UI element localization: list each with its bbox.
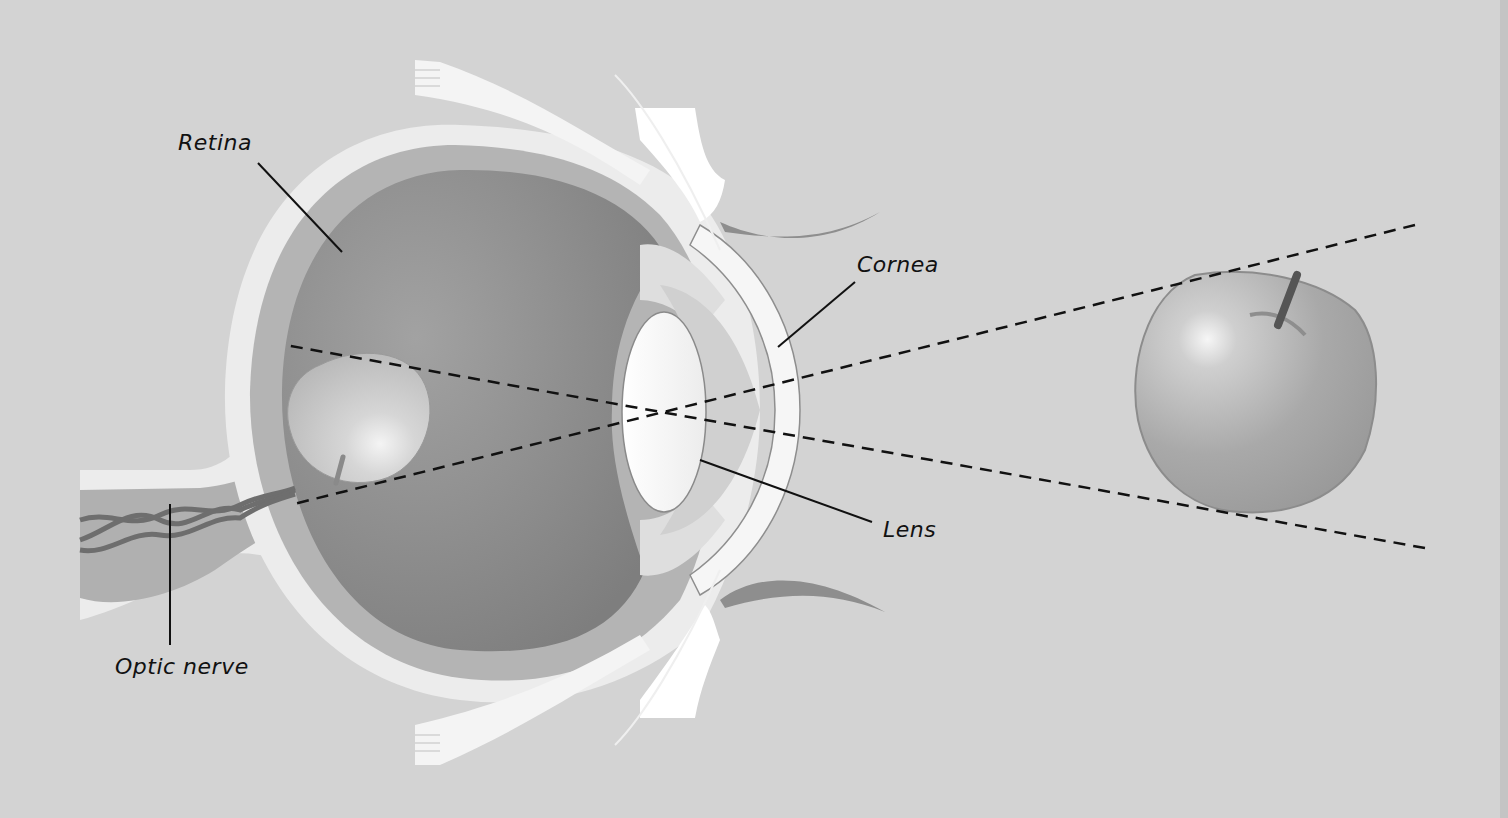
eye-illustration [0,0,1508,818]
lens-label: Lens [883,517,936,542]
lens [622,312,706,512]
cornea-leader [778,282,855,347]
optic-nerve-label: Optic nerve [115,654,249,679]
retinal-image-apple [288,353,430,483]
apple-object [1135,272,1376,512]
retina-label: Retina [178,130,252,155]
cornea-label: Cornea [857,252,939,277]
eye-diagram: Retina Cornea Lens Optic nerve [0,0,1508,818]
